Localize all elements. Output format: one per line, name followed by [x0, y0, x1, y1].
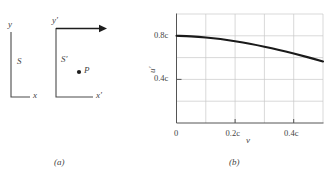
- chart-gridlines: [177, 14, 324, 123]
- x-tick-label: 0: [174, 129, 178, 138]
- caption-b: (b): [229, 157, 240, 167]
- velocity-arrow-head: [99, 25, 107, 32]
- frame-s-name-label: S: [17, 57, 22, 66]
- panel-b-chart: 00.2c0.4c 0.4c0.8c v u′ (b): [163, 0, 325, 178]
- caption-a: (a): [54, 157, 65, 167]
- frame-s-prime-y-axis-label: y′: [52, 16, 58, 25]
- chart-graphics: [163, 0, 325, 178]
- frame-s-prime-name-label: S′: [61, 55, 67, 64]
- y-tick-label: 0.8c: [154, 31, 168, 40]
- point-p-label: P: [84, 66, 90, 75]
- point-p-dot: [77, 70, 81, 74]
- figure-root: y x S y′ x′ S′ P (a) 00.2c0.4c 0.4c0.8c …: [0, 0, 325, 178]
- panel-a-reference-frames: y x S y′ x′ S′ P (a): [0, 0, 163, 178]
- frame-s-x-axis-label: x: [33, 91, 37, 100]
- chart-y-axis-label: u′: [147, 67, 157, 73]
- chart-axis-spines: [177, 14, 324, 123]
- x-tick-label: 0.4c: [284, 129, 298, 138]
- frame-s-prime-x-axis-label: x′: [96, 91, 102, 100]
- chart-axes: [177, 14, 324, 123]
- chart-x-axis-label: v: [246, 136, 250, 145]
- y-tick-label: 0.4c: [154, 74, 168, 83]
- panel-a-graphics: [0, 0, 163, 178]
- x-tick-label: 0.2c: [226, 129, 240, 138]
- frame-s-y-axis-label: y: [8, 20, 12, 29]
